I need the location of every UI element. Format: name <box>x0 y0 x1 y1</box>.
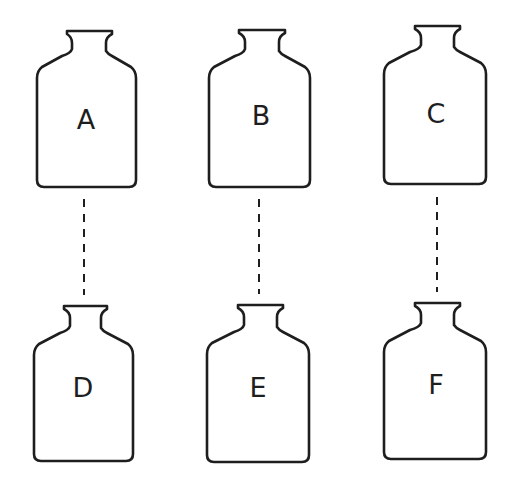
bottle-d: D <box>34 306 133 461</box>
bottle-label-d: D <box>73 372 94 403</box>
bottle-label-a: A <box>77 104 96 135</box>
bottle-b: B <box>209 30 310 187</box>
bottle-f: F <box>384 303 486 459</box>
bottle-label-c: C <box>427 98 446 129</box>
bottle-c: C <box>384 26 486 184</box>
bottle-label-e: E <box>249 372 266 403</box>
bottle-label-f: F <box>428 369 444 400</box>
bottle-label-b: B <box>252 100 271 131</box>
bottle-diagram: A B C D E F <box>0 0 517 483</box>
bottle-a: A <box>37 31 136 187</box>
bottle-e: E <box>207 305 309 462</box>
